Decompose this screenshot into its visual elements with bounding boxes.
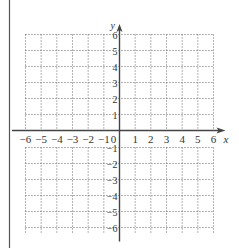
y-tick-label: 6 <box>113 30 118 41</box>
y-tick-label: 1 <box>113 110 118 121</box>
x-tick-label: 6 <box>211 133 217 145</box>
x-tick-label: 1 <box>132 133 138 145</box>
y-tick-label: −1 <box>107 143 118 154</box>
axes: xy <box>12 20 229 242</box>
coordinate-plane: xy −6−5−4−3−2−10123456 654321−1−2−3−4−5−… <box>0 0 239 248</box>
x-tick-label: 3 <box>164 133 170 145</box>
y-tick-label: 2 <box>113 94 118 105</box>
x-tick-label: 2 <box>148 133 154 145</box>
y-tick-labels: 654321−1−2−3−4−5−6 <box>107 30 118 234</box>
x-tick-label: −6 <box>20 133 32 145</box>
y-tick-label: 5 <box>113 46 118 57</box>
y-tick-label: −4 <box>107 191 118 202</box>
x-tick-label: 5 <box>195 133 201 145</box>
x-tick-label: −5 <box>35 133 47 145</box>
y-tick-label: 4 <box>113 62 118 73</box>
x-tick-labels: −6−5−4−3−2−10123456 <box>20 133 217 145</box>
x-axis-label: x <box>223 133 229 145</box>
y-tick-label: −2 <box>107 159 118 170</box>
x-tick-label: −4 <box>51 133 63 145</box>
y-tick-label: −5 <box>107 207 118 218</box>
x-tick-label: −2 <box>82 133 94 145</box>
y-tick-label: −6 <box>107 223 118 234</box>
x-tick-label: 4 <box>179 133 185 145</box>
y-tick-label: 3 <box>113 78 118 89</box>
coordinate-plane-figure: xy −6−5−4−3−2−10123456 654321−1−2−3−4−5−… <box>0 0 239 248</box>
x-tick-label: −3 <box>67 133 79 145</box>
y-tick-label: −3 <box>107 175 118 186</box>
